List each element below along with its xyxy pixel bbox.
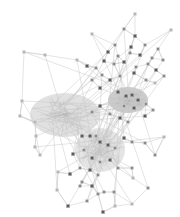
graph-node	[68, 172, 71, 175]
graph-node	[143, 114, 146, 117]
graph-node	[71, 152, 74, 155]
graph-node	[80, 134, 83, 137]
graph-node	[101, 210, 104, 213]
graph-node	[23, 51, 26, 54]
graph-node	[118, 116, 121, 119]
graph-edge	[115, 45, 118, 56]
graph-node	[95, 67, 98, 70]
graph-node	[91, 111, 94, 114]
graph-node	[57, 171, 60, 174]
graph-edge	[92, 34, 108, 52]
graph-node	[102, 59, 105, 62]
graph-edge	[22, 52, 24, 101]
graph-node	[88, 134, 91, 137]
graph-edge	[115, 29, 124, 45]
graph-node	[114, 44, 117, 47]
graph-node	[98, 140, 101, 143]
graph-edge	[24, 52, 45, 55]
graph-node	[91, 79, 94, 82]
graph-node	[131, 167, 134, 170]
graph-node	[124, 94, 127, 97]
graph-node	[114, 147, 117, 150]
graph-edge	[145, 30, 171, 45]
graph-node	[134, 13, 137, 16]
graph-edge	[132, 188, 148, 204]
graph-node	[85, 64, 88, 67]
graph-node	[99, 161, 102, 164]
graph-node	[138, 53, 141, 56]
graph-node	[117, 167, 120, 170]
graph-node	[117, 55, 120, 58]
graph-node	[136, 98, 139, 101]
graph-node	[123, 28, 126, 31]
network-graph	[0, 0, 180, 217]
graph-node	[129, 45, 132, 48]
graph-edge	[92, 34, 115, 45]
graph-edge	[57, 190, 68, 206]
graph-node	[151, 57, 154, 60]
graph-node	[88, 168, 91, 171]
graph-node	[133, 34, 136, 37]
graph-node	[21, 100, 24, 103]
graph-node	[108, 78, 111, 81]
graph-node	[123, 105, 126, 108]
graph-edge	[20, 101, 22, 116]
graph-edge	[158, 49, 163, 60]
graph-node	[79, 167, 82, 170]
graph-node	[56, 189, 59, 192]
graph-node	[114, 205, 117, 208]
graph-node	[130, 93, 133, 96]
graph-edge	[114, 192, 132, 204]
graph-edge	[45, 55, 77, 60]
graph-node	[132, 177, 135, 180]
graph-node	[127, 121, 130, 124]
graph-node	[95, 135, 98, 138]
graph-edge	[115, 204, 132, 206]
graph-node	[147, 63, 150, 66]
graph-node	[152, 109, 155, 112]
graph-edge	[57, 172, 58, 190]
graph-node	[145, 79, 148, 82]
graph-node	[108, 158, 111, 161]
graph-node	[122, 60, 125, 63]
graph-node	[135, 66, 138, 69]
graph-node	[132, 106, 135, 109]
graph-node	[66, 204, 69, 207]
graph-node	[157, 48, 160, 51]
graph-node	[106, 143, 109, 146]
graph-node	[147, 187, 150, 190]
graph-node	[101, 74, 104, 77]
graph-node	[163, 136, 166, 139]
graph-node	[154, 82, 157, 85]
graph-node	[44, 54, 47, 57]
graph-node	[91, 33, 94, 36]
graph-node	[35, 135, 38, 138]
graph-node	[113, 191, 116, 194]
graph-node	[86, 200, 89, 203]
graph-node	[97, 174, 100, 177]
graph-node	[19, 115, 22, 118]
graph-node	[129, 52, 132, 55]
graph-node	[131, 203, 134, 206]
graph-node	[170, 29, 173, 32]
graph-node	[98, 86, 101, 89]
graph-node	[116, 90, 119, 93]
graph-node	[106, 50, 109, 53]
graph-node	[76, 59, 79, 62]
graph-node	[144, 44, 147, 47]
graph-edge	[155, 137, 164, 155]
graph-node	[81, 181, 84, 184]
graph-node	[144, 142, 147, 145]
graph-node	[98, 104, 101, 107]
graph-node	[131, 141, 134, 144]
graph-node	[79, 185, 82, 188]
graph-edge	[68, 201, 87, 206]
graph-node	[83, 149, 86, 152]
graph-edge	[145, 143, 155, 155]
graph-node	[90, 156, 93, 159]
graph-node	[154, 68, 157, 71]
graph-node	[132, 71, 135, 74]
graph-node	[122, 136, 125, 139]
graph-node	[162, 59, 165, 62]
graph-node	[154, 154, 157, 157]
